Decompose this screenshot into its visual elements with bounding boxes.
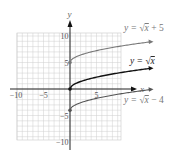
curve-label: y = √x — [129, 56, 156, 66]
x-axis-arrow-icon — [131, 87, 137, 92]
curve-arrow-icon — [149, 40, 154, 44]
x-tick-label: −10 — [10, 91, 23, 100]
y-tick-label: −10 — [56, 138, 69, 147]
start-point-dot — [68, 61, 72, 65]
function-graph: xy −10−55105−5−10 y = √x + 5y = √xy = √x… — [0, 0, 192, 156]
curve-label: y = √x + 5 — [123, 23, 164, 33]
x-tick-label: −5 — [39, 91, 48, 100]
y-tick-label: 10 — [61, 32, 69, 41]
x-tick-label: 5 — [95, 91, 99, 100]
curve-label: y = √x − 4 — [123, 95, 164, 105]
curve-arrow-icon — [149, 87, 154, 91]
start-point-dot — [68, 108, 72, 112]
curve-arrow-icon — [149, 66, 154, 70]
y-tick-label: 5 — [65, 59, 69, 68]
x-axis-label: x — [139, 84, 144, 94]
y-axis-arrow-icon — [68, 20, 73, 27]
start-point-dot — [68, 87, 72, 91]
y-axis-label: y — [67, 9, 72, 19]
y-tick-label: −5 — [60, 112, 69, 121]
